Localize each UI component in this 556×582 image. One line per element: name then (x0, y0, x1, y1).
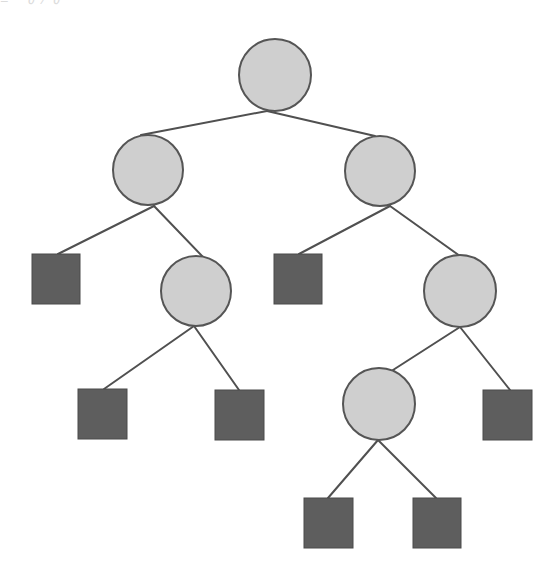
tree-edge-n5-l5 (328, 440, 378, 498)
tree-edge-n4-l4 (460, 327, 510, 390)
tree-edge-n2-n4 (390, 206, 460, 256)
tree-edge-n3-l3 (194, 326, 239, 390)
tree-edge-n1-l0 (58, 206, 154, 254)
internal-node-n0 (239, 39, 311, 111)
leaf-node-l4 (483, 390, 532, 440)
leaf-node-l5 (304, 498, 353, 548)
leaf-node-l1 (274, 254, 322, 304)
internal-node-n1 (113, 135, 183, 205)
tree-edge-n4-n5 (393, 327, 460, 370)
internal-node-n2 (345, 136, 415, 206)
leaf-node-l2 (78, 389, 127, 439)
internal-node-n3 (161, 256, 231, 326)
tree-edge-n1-n3 (154, 206, 203, 257)
leaf-node-l0 (32, 254, 80, 304)
tree-edge-n3-l2 (104, 326, 194, 389)
leaf-node-l3 (215, 390, 264, 440)
leaf-node-l6 (413, 498, 461, 548)
tree-edge-n0-n1 (141, 111, 267, 135)
tree-edge-n0-n2 (267, 111, 375, 136)
tree-edge-n5-l6 (378, 440, 436, 498)
internal-node-n4 (424, 255, 496, 327)
tree-edge-n2-l1 (299, 206, 390, 254)
internal-node-n5 (343, 368, 415, 440)
binary-tree-diagram (0, 0, 556, 582)
